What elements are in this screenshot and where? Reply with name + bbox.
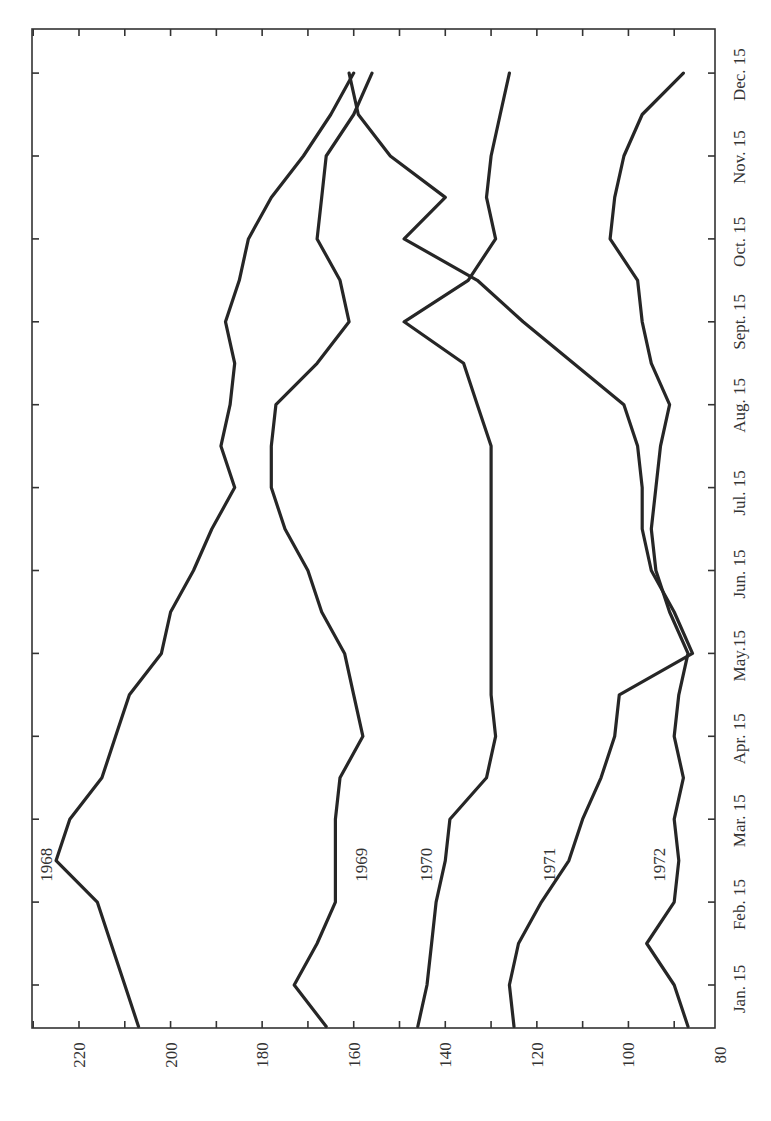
series-lines	[56, 73, 692, 1026]
value-tick-label: 220	[70, 1042, 89, 1068]
value-tick-label: 200	[162, 1042, 181, 1068]
price-index-chart: 22020018016014012010080 Jan. 15Feb. 15Ma…	[0, 0, 771, 1121]
month-tick-label: Feb. 15	[730, 879, 749, 930]
series-line-1971	[349, 73, 692, 1026]
value-axis: 22020018016014012010080	[33, 29, 730, 1068]
value-tick-label: 100	[619, 1042, 638, 1068]
series-label-1969: 1969	[352, 848, 371, 882]
series-line-1970	[404, 73, 509, 1026]
series-line-1972	[610, 73, 688, 1026]
month-tick-label: Dec. 15	[730, 48, 749, 101]
month-tick-label: Jun. 15	[730, 549, 749, 598]
month-tick-label: Nov. 15	[730, 130, 749, 184]
value-tick-label: 120	[528, 1042, 547, 1068]
series-line-1969	[271, 73, 372, 1026]
month-tick-label: May.15	[730, 630, 749, 681]
value-tick-label: 180	[253, 1042, 272, 1068]
series-line-1968	[56, 73, 354, 1026]
series-label-1972: 1972	[650, 848, 669, 882]
month-tick-label: Jul. 15	[730, 470, 749, 515]
series-label-1970: 1970	[417, 848, 436, 882]
month-tick-label: Sept. 15	[730, 294, 749, 350]
series-label-1968: 1968	[37, 848, 56, 882]
month-tick-label: Apr. 15	[730, 713, 749, 764]
month-tick-label: Aug. 15	[730, 378, 749, 433]
value-tick-label: 80	[711, 1047, 730, 1064]
month-tick-label: Jan. 15	[730, 965, 749, 1013]
series-labels: 19681969197019711972	[37, 848, 670, 882]
value-tick-label: 140	[436, 1042, 455, 1068]
month-tick-label: Oct. 15	[730, 217, 749, 267]
value-tick-label: 160	[345, 1042, 364, 1068]
month-tick-label: Mar. 15	[730, 794, 749, 847]
series-label-1971: 1971	[540, 848, 559, 882]
plot-frame	[32, 29, 715, 1028]
